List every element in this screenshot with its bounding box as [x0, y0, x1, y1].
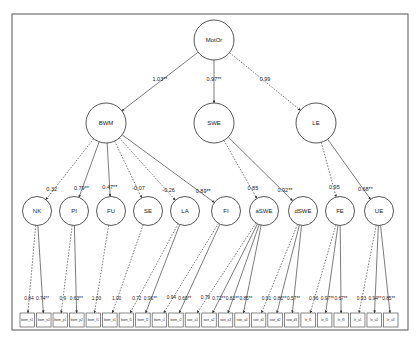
edge-ue-le-u3-coefficient: 0.85**: [382, 296, 395, 301]
indicator-box-le-u3-label: le_u3: [387, 318, 395, 322]
edge-motor-bwm-path: [122, 52, 198, 111]
edge-dswe-swe-d1-coefficient: 0.91: [262, 296, 272, 301]
edge-swe-dswe-coefficient: 0.92**: [277, 187, 293, 193]
diagram-frame: [12, 14, 408, 330]
indicator-box-le-f1: le_f1: [301, 313, 316, 327]
indicator-box-swe-a3: swe_a3: [218, 313, 233, 327]
edge-bwm-la-coefficient: -0.26: [162, 187, 175, 193]
edge-pi-bwm-p1-coefficient: 0.9: [59, 296, 66, 301]
edge-nk-bwm-n1-coefficient: 0.84: [24, 296, 34, 301]
indicator-box-swe-a4-label: swe_a4: [237, 318, 248, 322]
indicator-box-le-u2: le_u2: [367, 313, 382, 327]
latent-node-aswe-label: aSWE: [255, 208, 272, 214]
edge-le-ue-coefficient: 0.68**: [358, 186, 374, 192]
latent-node-nk-label: NK: [33, 208, 41, 214]
indicator-box-bwm-i1: bwm_i1: [152, 313, 167, 327]
indicator-box-bwm-l2: bwm_l2: [136, 313, 151, 327]
edge-fi-bwm-i1-coefficient: 0.94: [167, 295, 177, 300]
edge-ue-le-u1-coefficient: 0.93: [357, 296, 367, 301]
latent-node-le-label: LE: [312, 120, 319, 126]
indicator-box-le-u2-label: le_u2: [370, 318, 378, 322]
indicator-box-swe-a1-label: swe_a1: [187, 318, 198, 322]
indicator-box-bwm-n1-label: bwm_n1: [21, 318, 33, 322]
latent-node-swe-label: SWE: [207, 120, 221, 126]
indicator-box-bwm-p2: bwm_p2: [70, 313, 85, 327]
latent-node-pi-label: PI: [71, 208, 77, 214]
latent-node-fu: FU: [97, 197, 126, 226]
indicator-box-swe-d3: swe_d3: [284, 313, 299, 327]
latent-node-motor-label: MotOr: [206, 37, 223, 43]
latent-node-pi: PI: [60, 197, 89, 226]
indicator-box-le-f2: le_f2: [317, 313, 332, 327]
indicator-box-bwm-i2: bwm_i2: [169, 313, 184, 327]
latent-node-fi: FI: [212, 197, 241, 226]
latent-node-swe: SWE: [194, 103, 234, 143]
indicator-box-le-u3: le_u3: [384, 313, 399, 327]
indicator-box-bwm-i2-label: bwm_i2: [170, 318, 181, 322]
indicator-box-le-u1: le_u1: [350, 313, 365, 327]
latent-node-bwm-label: BWM: [99, 120, 114, 126]
edge-fe-le-f2-coefficient: 0.97**: [321, 296, 334, 301]
latent-node-dswe: dSWE: [289, 197, 318, 226]
indicator-box-bwm-p2-label: bwm_p2: [71, 318, 83, 322]
indicator-box-swe-a1: swe_a1: [185, 313, 200, 327]
nodes-layer: MotOrBWMSWELENKPIFUSELAFIaSWEdSWEFEUEbwm…: [20, 20, 398, 327]
indicator-box-le-f3: le_f3: [334, 313, 349, 327]
latent-node-nk: NK: [23, 197, 52, 226]
latent-node-se-label: SE: [144, 208, 152, 214]
edge-fi-bwm-i2-coefficient: 0.69**: [178, 296, 191, 301]
edge-motor-swe-coefficient: 0.97**: [207, 76, 223, 82]
indicator-box-bwm-p1-label: bwm_p1: [54, 318, 66, 322]
indicator-box-swe-a3-label: swe_a3: [220, 318, 231, 322]
edge-aswe-swe-a1-coefficient: 0.79: [201, 295, 211, 300]
edge-la-bwm-l2-coefficient: 0.96**: [144, 296, 157, 301]
edge-aswe-swe-a3-coefficient: 0.83**: [226, 296, 239, 301]
indicator-box-le-u1-label: le_u1: [354, 318, 362, 322]
latent-node-bwm: BWM: [86, 103, 126, 143]
indicator-box-le-f1-label: le_f1: [305, 318, 312, 322]
indicator-box-bwm-p1: bwm_p1: [53, 313, 68, 327]
edge-aswe-swe-a4-coefficient: 0.85**: [239, 296, 252, 301]
indicator-box-swe-a4: swe_a4: [235, 313, 250, 327]
edge-nk-bwm-n2-coefficient: 0.74**: [36, 296, 49, 301]
latent-node-se: SE: [134, 197, 163, 226]
edge-bwm-fu-coefficient: 0.47**: [102, 184, 118, 190]
latent-node-la: LA: [171, 197, 200, 226]
edge-bwm-nk-coefficient: 0.32: [46, 186, 57, 192]
indicator-box-swe-d2: swe_d2: [268, 313, 283, 327]
indicator-box-bwm-l1: bwm_l1: [119, 313, 133, 327]
indicator-box-swe-a2: swe_a2: [202, 313, 217, 327]
indicator-box-swe-a2-label: swe_a2: [204, 318, 215, 322]
indicator-box-swe-d1: swe_d1: [251, 313, 266, 327]
indicator-box-swe-d1-label: swe_d1: [253, 318, 264, 322]
sem-diagram: 1.03**0.97**0.990.320.79**0.47**-0.07-0.…: [0, 0, 419, 342]
indicator-box-bwm-n2-label: bwm_n2: [38, 318, 50, 322]
latent-node-la-label: LA: [181, 208, 188, 214]
edges-layer: [28, 52, 390, 313]
latent-node-fe-label: FE: [336, 208, 344, 214]
indicator-box-bwm-l1-label: bwm_l1: [121, 318, 132, 322]
latent-node-ue-label: UE: [375, 208, 383, 214]
edge-dswe-swe-d3-coefficient: 0.57**: [287, 296, 300, 301]
edge-dswe-swe-d2-coefficient: 0.86**: [273, 296, 286, 301]
edge-bwm-pi-coefficient: 0.79**: [74, 185, 90, 191]
latent-node-fu-label: FU: [107, 208, 115, 214]
edge-bwm-fi-coefficient: 0.89**: [196, 188, 212, 194]
latent-node-ue: UE: [365, 197, 394, 226]
indicator-box-le-f2-label: le_f2: [321, 318, 328, 322]
edge-fu-bwm-f1-coefficient: 1.00: [92, 296, 102, 301]
indicator-box-le-f3-label: le_f3: [338, 318, 345, 322]
edge-le-fe-coefficient: 0.95: [329, 184, 340, 190]
edge-fe-le-f1-coefficient: 0.96: [309, 296, 319, 301]
edge-la-bwm-l1-coefficient: 0.72: [132, 296, 142, 301]
latent-node-fe: FE: [326, 197, 355, 226]
indicator-box-swe-d3-label: swe_d3: [286, 318, 297, 322]
edge-motor-bwm-coefficient: 1.03**: [153, 76, 169, 82]
latent-node-dswe-label: dSWE: [294, 208, 311, 214]
edge-aswe-swe-a2-coefficient: 0.72**: [212, 296, 225, 301]
edge-swe-aswe-coefficient: 0.85: [248, 185, 259, 191]
edge-motor-le-path: [230, 53, 301, 111]
latent-node-aswe: aSWE: [250, 197, 279, 226]
edge-pi-bwm-p2-coefficient: 0.63**: [70, 296, 83, 301]
edge-se-bwm-s1-coefficient: 1.00: [112, 296, 122, 301]
